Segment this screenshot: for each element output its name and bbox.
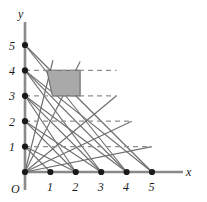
lattice-dot-0-2 xyxy=(22,118,28,124)
lattice-dot-5-0 xyxy=(149,169,155,175)
y-axis-label: y xyxy=(17,7,24,21)
x-axis-label: x xyxy=(185,165,192,179)
y-tick-1: 1 xyxy=(9,140,15,154)
shaded-region-layer xyxy=(47,70,80,95)
lattice-dot-0-5 xyxy=(22,42,28,48)
y-tick-2: 2 xyxy=(9,115,15,129)
line-segments-layer xyxy=(25,45,152,172)
x-tick-4: 4 xyxy=(123,180,129,194)
seg-0-3-to-3-0 xyxy=(25,96,101,172)
coordinate-plot: x y O 12345 12345 xyxy=(0,0,207,202)
origin-label: O xyxy=(11,182,20,196)
y-tick-4: 4 xyxy=(9,64,15,78)
x-tick-1: 1 xyxy=(47,180,53,194)
lattice-dot-1-0 xyxy=(47,169,53,175)
figure-container: x y O 12345 12345 xyxy=(0,0,207,202)
lattice-dot-4-0 xyxy=(124,169,130,175)
lattice-dot-0-3 xyxy=(22,93,28,99)
lattice-dot-0-1 xyxy=(22,144,28,150)
x-tick-2: 2 xyxy=(72,180,78,194)
lattice-dot-2-0 xyxy=(73,169,79,175)
seg-0-3-to-4-0 xyxy=(25,96,127,172)
lattice-dot-3-0 xyxy=(98,169,104,175)
lattice-dot-0-0 xyxy=(22,169,28,175)
seg-0-5-to-5-0 xyxy=(25,45,152,172)
x-tick-labels: 12345 xyxy=(47,180,155,194)
x-tick-5: 5 xyxy=(149,180,155,194)
shaded-quadrilateral xyxy=(47,70,80,95)
seg-0-3-to-2-0 xyxy=(25,96,76,172)
y-tick-3: 3 xyxy=(8,89,15,103)
y-tick-5: 5 xyxy=(9,39,15,53)
y-tick-labels: 12345 xyxy=(8,39,15,155)
x-tick-3: 3 xyxy=(97,180,104,194)
lattice-dot-0-4 xyxy=(22,67,28,73)
seg-0-5-to-4-0 xyxy=(25,45,127,172)
seg-origin-to-5-1 xyxy=(25,147,152,172)
